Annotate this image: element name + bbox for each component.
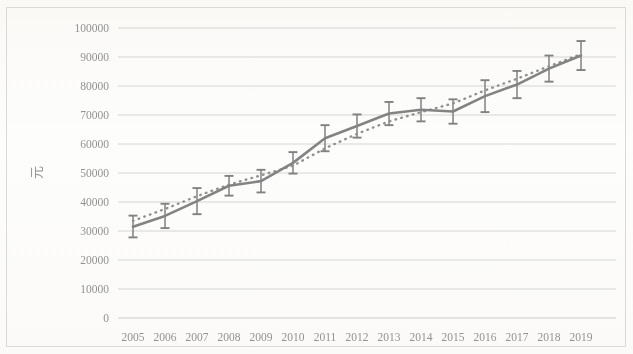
x-tick-label: 2015 (442, 331, 465, 343)
x-tick-labels-group: 2005200620072008200920102011201220132014… (122, 331, 593, 343)
error-bars-group (129, 41, 586, 237)
y-tick-label: 70000 (80, 109, 109, 121)
y-tick-label: 0 (103, 312, 109, 324)
x-tick-label: 2010 (282, 331, 305, 343)
y-tick-label: 20000 (80, 254, 109, 266)
y-tick-label: 40000 (80, 196, 109, 208)
line-chart-svg: 0100002000030000400005000060000700008000… (0, 0, 633, 354)
x-tick-label: 2019 (570, 331, 593, 343)
x-tick-label: 2014 (410, 331, 433, 343)
x-tick-label: 2006 (154, 331, 177, 343)
y-tick-label: 80000 (80, 80, 109, 92)
x-tick-label: 2013 (378, 331, 401, 343)
x-tick-label: 2012 (346, 331, 369, 343)
y-axis-title: 元 (29, 166, 44, 179)
y-tick-labels-group: 0100002000030000400005000060000700008000… (75, 22, 110, 324)
x-tick-label: 2011 (314, 331, 337, 343)
chart-page: 0100002000030000400005000060000700008000… (0, 0, 633, 354)
y-tick-label: 90000 (80, 51, 109, 63)
x-tick-label: 2009 (250, 331, 273, 343)
y-tick-label: 100000 (75, 22, 110, 34)
series-line-solid (133, 56, 581, 227)
x-tick-label: 2017 (506, 331, 529, 343)
x-tick-label: 2018 (538, 331, 561, 343)
y-tick-label: 10000 (80, 283, 109, 295)
x-tick-label: 2016 (474, 331, 497, 343)
x-tick-label: 2007 (186, 331, 209, 343)
y-tick-label: 60000 (80, 138, 109, 150)
y-tick-label: 50000 (80, 167, 109, 179)
x-tick-label: 2008 (218, 331, 241, 343)
y-tick-label: 30000 (80, 225, 109, 237)
x-tick-label: 2005 (122, 331, 145, 343)
